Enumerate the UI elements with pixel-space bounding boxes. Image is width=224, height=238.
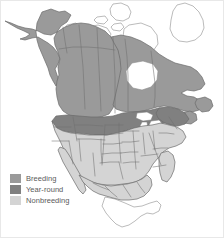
range-legend: Breeding Year-round Nonbreeding: [10, 173, 102, 206]
greenland-outline: [170, 3, 204, 42]
southern-mexico-outline: [102, 197, 161, 227]
ellesmere-island-outline: [110, 3, 131, 21]
arctic-islet-1: [94, 16, 108, 24]
legend-item-year-round: Year-round: [10, 184, 102, 195]
legend-item-breeding: Breeding: [10, 173, 102, 184]
nonbreeding-area-florida: [159, 151, 175, 182]
legend-label-year-round: Year-round: [26, 185, 63, 194]
legend-item-nonbreeding: Nonbreeding: [10, 195, 102, 206]
legend-label-breeding: Breeding: [26, 174, 56, 183]
legend-label-nonbreeding: Nonbreeding: [26, 196, 70, 205]
legend-swatch-year-round: [10, 185, 21, 194]
legend-swatch-breeding: [10, 174, 21, 183]
arctic-islet-2: [111, 23, 124, 31]
legend-swatch-nonbreeding: [10, 196, 21, 205]
range-map-figure: Breeding Year-round Nonbreeding: [0, 0, 224, 238]
